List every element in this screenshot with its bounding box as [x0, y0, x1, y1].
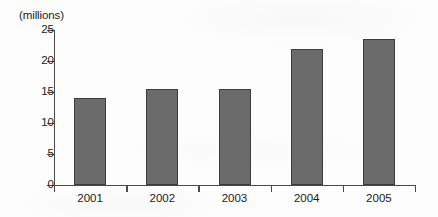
- y-tick-label: 15: [10, 85, 54, 97]
- x-tick-mark: [126, 185, 127, 192]
- x-tick-mark: [343, 185, 344, 192]
- x-tick-mark: [415, 185, 416, 192]
- bar: [291, 49, 323, 185]
- x-axis-line: [54, 185, 415, 186]
- y-tick-label: 10: [10, 116, 54, 128]
- x-tick-label: 2005: [343, 192, 415, 204]
- bar: [219, 89, 251, 185]
- x-tick-label: 2004: [271, 192, 343, 204]
- x-tick-label: 2001: [54, 192, 126, 204]
- x-tick-mark: [198, 185, 199, 192]
- x-tick-mark: [54, 185, 55, 192]
- x-tick-label: 2002: [126, 192, 198, 204]
- y-tick-label: 20: [10, 54, 54, 66]
- y-axis-unit-label: (millions): [19, 9, 64, 21]
- y-axis-line: [54, 30, 55, 186]
- bar-chart: (millions) 0510152025 200120022003200420…: [0, 0, 438, 217]
- y-tick-label: 25: [10, 23, 54, 35]
- bar: [363, 39, 395, 185]
- bar: [74, 98, 106, 185]
- x-tick-label: 2003: [198, 192, 270, 204]
- y-tick-label: 5: [10, 147, 54, 159]
- x-tick-mark: [271, 185, 272, 192]
- bar: [146, 89, 178, 185]
- y-tick-label: 0: [10, 178, 54, 190]
